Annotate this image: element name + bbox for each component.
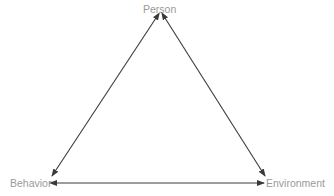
arrow-person-behavior [52, 18, 156, 176]
triangle-diagram [0, 0, 334, 196]
arrow-person-environment [165, 18, 265, 176]
